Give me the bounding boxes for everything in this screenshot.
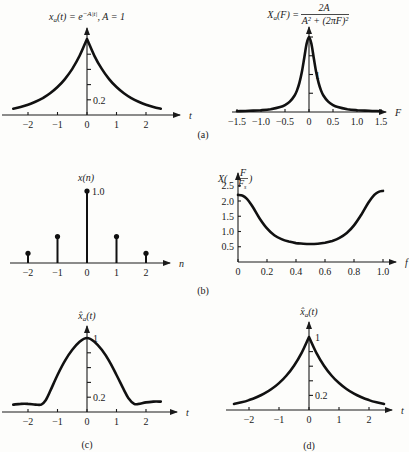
x-tick-label: −2 bbox=[23, 416, 34, 427]
x-tick-label: 1 bbox=[337, 414, 342, 425]
x-axis-label: n bbox=[179, 258, 184, 269]
y-tick-label: 0.2 bbox=[93, 392, 106, 403]
x-tick-label: −1 bbox=[274, 414, 285, 425]
x-tick-label: −1.5 bbox=[228, 116, 246, 127]
x-tick-label: 0 bbox=[85, 267, 90, 278]
panel-c: −2−1012t10.2x̂a(t) bbox=[2, 310, 189, 427]
x-tick-label: 0 bbox=[307, 116, 312, 127]
panel-b-right: 00.20.40.60.81.0f0.51.01.52.02.5X(FFs) bbox=[217, 167, 409, 277]
x-tick-label: 2 bbox=[367, 414, 372, 425]
x-tick-label: 0 bbox=[307, 414, 312, 425]
stem-marker bbox=[143, 251, 148, 256]
x-tick-label: 0.6 bbox=[319, 266, 332, 277]
chart-title: x̂a(t) bbox=[299, 306, 318, 319]
x-tick-label: 1 bbox=[114, 119, 119, 130]
chart-title: xa(t) = e−A|t|, A = 1 bbox=[48, 10, 125, 24]
chart-title: X( bbox=[217, 173, 228, 185]
stem-marker bbox=[114, 234, 119, 239]
panel-b-left: −2−1012n1.0x(n) bbox=[10, 172, 184, 278]
title-numerator: F bbox=[239, 167, 247, 178]
caption-a: (a) bbox=[197, 129, 208, 141]
title-denominator: A² + (2πF)² bbox=[301, 15, 350, 27]
x-axis-label: f bbox=[405, 257, 409, 268]
x-tick-label: 1.0 bbox=[377, 266, 390, 277]
x-tick-label: 0 bbox=[85, 119, 90, 130]
y-tick-label: 1.5 bbox=[222, 211, 235, 222]
x-tick-label: 1 bbox=[114, 267, 119, 278]
x-tick-label: −2 bbox=[244, 414, 255, 425]
caption-c: (c) bbox=[81, 439, 92, 451]
y-tick-label: 2.0 bbox=[222, 196, 235, 207]
chart-title: Xa(F) = bbox=[266, 9, 299, 22]
stem-marker bbox=[25, 251, 30, 256]
panel-d: −2−1012t10.2x̂a(t) bbox=[226, 306, 404, 425]
caption-d: (d) bbox=[303, 440, 315, 452]
y-tick-label: 0.5 bbox=[222, 241, 235, 252]
stem-marker bbox=[84, 188, 89, 193]
y-tick-label: 1.0 bbox=[222, 226, 235, 237]
x-tick-label: −1.0 bbox=[252, 116, 270, 127]
x-tick-label: 2 bbox=[144, 416, 149, 427]
x-axis-label: F bbox=[394, 107, 402, 118]
x-axis-label: t bbox=[189, 110, 192, 121]
x-tick-label: 0 bbox=[85, 416, 90, 427]
y-tick-label: 0.2 bbox=[315, 390, 328, 401]
x-tick-label: 0.4 bbox=[290, 266, 303, 277]
x-tick-label: 0 bbox=[236, 266, 241, 277]
x-tick-label: −2 bbox=[23, 267, 34, 278]
chart-title: x̂a(t) bbox=[77, 310, 96, 323]
x-tick-label: −1 bbox=[52, 416, 63, 427]
y-tick-label: 0.2 bbox=[93, 95, 106, 106]
x-tick-label: −1 bbox=[52, 267, 63, 278]
x-tick-label: −2 bbox=[23, 119, 34, 130]
caption-b: (b) bbox=[197, 285, 209, 297]
chart-title: x(n) bbox=[77, 172, 95, 184]
series-line bbox=[238, 191, 383, 244]
y-tick-label: 1 bbox=[315, 332, 320, 343]
x-tick-label: 1.0 bbox=[351, 116, 364, 127]
x-tick-label: 1 bbox=[114, 416, 119, 427]
x-tick-label: 0.8 bbox=[348, 266, 361, 277]
x-tick-label: −0.5 bbox=[276, 116, 294, 127]
title-close: ) bbox=[248, 173, 253, 185]
title-denominator: Fs bbox=[237, 178, 247, 190]
x-axis-label: t bbox=[401, 405, 404, 416]
panel-a-left: −2−1012t0.2xa(t) = e−A|t|, A = 1 bbox=[2, 10, 192, 130]
stem-annotation: 1.0 bbox=[92, 186, 105, 197]
x-tick-label: 2 bbox=[144, 267, 149, 278]
x-tick-label: 0.5 bbox=[327, 116, 340, 127]
x-axis-label: t bbox=[186, 407, 189, 418]
title-numerator: 2A bbox=[318, 2, 330, 13]
panel-a-right: −1.5−1.0−0.500.51.01.5F1Xa(F) = 2AA² + (… bbox=[228, 2, 402, 127]
figure: −2−1012t0.2xa(t) = e−A|t|, A = 1−1.5−1.0… bbox=[0, 0, 409, 452]
x-tick-label: 1.5 bbox=[375, 116, 388, 127]
x-tick-label: 0.2 bbox=[261, 266, 274, 277]
stem-marker bbox=[55, 234, 60, 239]
x-tick-label: −1 bbox=[52, 119, 63, 130]
x-tick-label: 2 bbox=[144, 119, 149, 130]
